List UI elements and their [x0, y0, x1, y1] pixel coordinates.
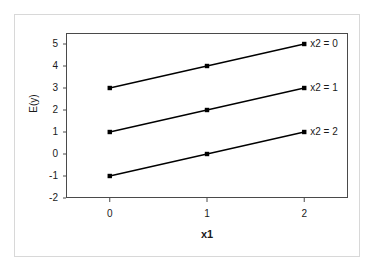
y-tick-label: 4: [40, 61, 58, 71]
series-label: x2 = 1: [310, 83, 338, 93]
y-tick-label: -1: [40, 171, 58, 181]
y-tick-label: 0: [40, 149, 58, 159]
plot-area: [66, 33, 348, 198]
chart-figure: 543210-1-2 012 x2 = 0x2 = 1x2 = 2 E(y) x…: [0, 0, 372, 272]
series-label: x2 = 2: [310, 127, 338, 137]
y-tick-label: -2: [40, 193, 58, 203]
y-tick-label: 2: [40, 105, 58, 115]
y-tick-label: 1: [40, 127, 58, 137]
x-axis-title: x1: [157, 228, 257, 240]
y-axis-title: E(y): [28, 84, 39, 124]
x-tick-label: 2: [289, 209, 319, 219]
y-tick-label: 5: [40, 39, 58, 49]
x-tick-label: 1: [192, 209, 222, 219]
x-tick-label: 0: [95, 209, 125, 219]
y-tick-label: 3: [40, 83, 58, 93]
series-label: x2 = 0: [310, 39, 338, 49]
